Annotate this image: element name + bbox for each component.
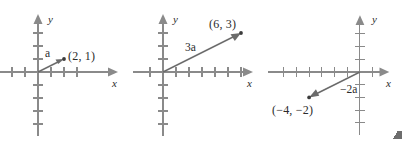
y-axis-label: y [48,14,53,25]
corner-fold-mark [391,131,402,139]
x-axis-arrowhead [243,68,253,77]
vector-a-shaft [38,62,59,73]
vector-3a-shaft [163,37,233,72]
panel-vector-a: y x a (2, 1) [0,0,135,144]
y-axis-label: y [173,14,178,25]
panel-3-plot [268,0,403,144]
vector-label-minus-2a: −2a [340,84,357,96]
vector-label-3a: 3a [185,42,196,54]
vector-label-a: a [45,48,50,60]
y-axis-label: y [372,14,377,25]
panel-1-plot [0,0,135,144]
panel-vector-3a: y x 3a (6, 3) [133,0,268,144]
x-axis-label: x [247,78,252,89]
point-label-6-3: (6, 3) [209,18,236,30]
y-axis-arrowhead [34,14,43,24]
panel-2-plot [133,0,268,144]
point-dot-6-3 [239,31,243,35]
y-axis-arrowhead [159,14,168,24]
point-label-2-1: (2, 1) [68,50,95,62]
x-axis-label: x [386,78,391,89]
y-axis-arrowhead [356,15,365,25]
vector-scalar-multiples-figure: y x a (2, 1) [0,0,406,144]
x-axis-arrowhead [108,68,118,77]
point-label-minus4-minus2: (−4, −2) [272,104,313,116]
x-axis-arrowhead [380,68,390,77]
vector-minus-2a-arrowhead [309,89,319,97]
panel-vector-minus-2a: y x −2a (−4, −2) [268,0,403,144]
point-dot-2-1 [62,57,66,61]
x-axis-label: x [112,78,117,89]
point-dot-minus4-minus2 [307,96,311,100]
